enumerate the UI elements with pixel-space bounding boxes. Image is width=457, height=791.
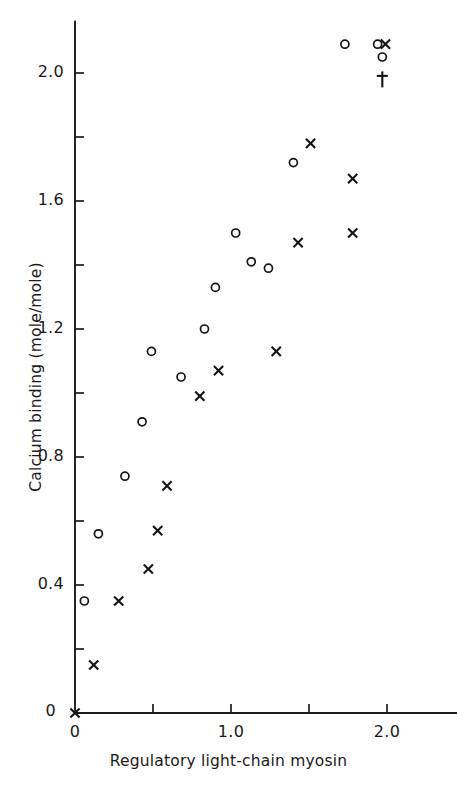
data-point-circle bbox=[374, 40, 382, 48]
x-tick-label: 1.0 bbox=[201, 722, 261, 741]
data-markers-layer bbox=[70, 40, 390, 718]
data-point-cross bbox=[348, 174, 357, 183]
data-point-cross bbox=[214, 366, 223, 375]
axes-layer bbox=[75, 22, 457, 713]
data-point-circle bbox=[341, 40, 349, 48]
data-point-cross bbox=[144, 564, 153, 573]
data-point-circle bbox=[289, 159, 297, 167]
data-point-cross bbox=[293, 238, 302, 247]
data-point-cross bbox=[114, 596, 123, 605]
x-axis-title: Regulatory light-chain myosin bbox=[0, 752, 457, 770]
data-point-cross bbox=[153, 526, 162, 535]
y-axis-title: Calcium binding (mole/mole) bbox=[27, 167, 45, 587]
x-tick-label: 2.0 bbox=[357, 722, 417, 741]
data-point-circle bbox=[232, 229, 240, 237]
data-point-circle bbox=[247, 258, 255, 266]
data-point-circle bbox=[80, 597, 88, 605]
scatter-plot-figure: 0.40.81.21.62.0001.02.0 Regulatory light… bbox=[0, 0, 457, 791]
data-point-circle bbox=[94, 530, 102, 538]
data-point-circle bbox=[378, 53, 386, 61]
plot-canvas bbox=[0, 0, 457, 791]
y-tick-label-zero: 0 bbox=[2, 701, 56, 720]
data-point-circle bbox=[211, 283, 219, 291]
data-point-cross bbox=[195, 392, 204, 401]
data-point-circle bbox=[264, 264, 272, 272]
data-point-circle bbox=[138, 418, 146, 426]
data-point-cross bbox=[306, 139, 315, 148]
data-point-circle bbox=[147, 347, 155, 355]
y-tick-label: 2.0 bbox=[10, 62, 64, 81]
data-point-cross bbox=[89, 660, 98, 669]
data-point-circle bbox=[177, 373, 185, 381]
x-tick-label: 0 bbox=[45, 722, 105, 741]
data-point-cross bbox=[272, 347, 281, 356]
data-point-cross bbox=[348, 228, 357, 237]
data-point-cross bbox=[162, 481, 171, 490]
data-point-circle bbox=[200, 325, 208, 333]
data-point-dagger bbox=[377, 71, 388, 87]
data-point-circle bbox=[121, 472, 129, 480]
